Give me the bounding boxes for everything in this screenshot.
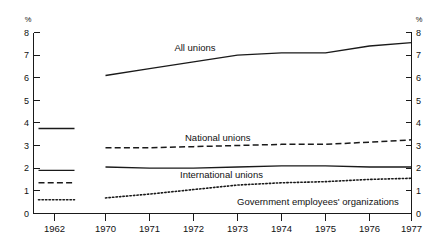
y-tick-label-left-5: 5 (24, 96, 29, 106)
international-unions-line (106, 166, 412, 168)
y-tick-label-right-3: 3 (416, 141, 421, 151)
y-tick-label-right-7: 7 (416, 50, 421, 60)
y-tick-label-right-0: 0 (416, 209, 421, 219)
x-tick-label-1970: 1970 (95, 223, 116, 234)
all-unions-line (106, 43, 412, 76)
y-tick-label-left-8: 8 (24, 28, 29, 38)
y-tick-label-right-2: 2 (416, 163, 421, 173)
y-tick-label-right-6: 6 (416, 73, 421, 83)
x-tick-label-1976: 1976 (359, 223, 380, 234)
x-tick-label-1962: 1962 (44, 223, 65, 234)
y-tick-label-left-3: 3 (24, 141, 29, 151)
x-tick-label-1977: 1977 (401, 223, 422, 234)
y-tick-label-right-1: 1 (416, 186, 421, 196)
y-axis-left-unit: % (25, 15, 32, 24)
y-tick-label-left-1: 1 (24, 186, 29, 196)
y-tick-label-right-4: 4 (416, 118, 421, 128)
y-axis-right: % 8 7 6 5 4 3 2 1 0 (406, 15, 423, 219)
x-tick-label-1975: 1975 (315, 223, 336, 234)
y-tick-label-left-7: 7 (24, 50, 29, 60)
union-membership-line-chart: % 8 7 6 5 4 3 2 1 0 % 8 7 6 (0, 0, 445, 250)
y-tick-label-right-8: 8 (416, 28, 421, 38)
annotation-national-unions: National unions (185, 132, 251, 143)
national-unions-line (106, 140, 412, 148)
y-axis-left: % 8 7 6 5 4 3 2 1 0 (24, 15, 40, 219)
annotation-government-employees: Government employees' organizations (237, 196, 399, 207)
x-tick-label-1971: 1971 (139, 223, 160, 234)
y-tick-label-left-6: 6 (24, 73, 29, 83)
x-tick-label-1974: 1974 (271, 223, 292, 234)
y-tick-label-left-0: 0 (24, 209, 29, 219)
y-tick-label-left-4: 4 (24, 118, 29, 128)
x-tick-label-1972: 1972 (183, 223, 204, 234)
chart-canvas: % 8 7 6 5 4 3 2 1 0 % 8 7 6 (0, 0, 445, 250)
annotation-all-unions: All unions (174, 42, 215, 53)
y-axis-right-unit: % (416, 15, 423, 24)
series-1962-segments (39, 129, 75, 200)
y-tick-label-left-2: 2 (24, 163, 29, 173)
annotation-international-unions: International unions (180, 169, 263, 180)
y-tick-label-right-5: 5 (416, 96, 421, 106)
government-employees-line (106, 178, 412, 198)
x-axis: 1962 1970 1971 1972 1973 1974 1975 1976 … (34, 214, 423, 235)
x-tick-label-1973: 1973 (227, 223, 248, 234)
